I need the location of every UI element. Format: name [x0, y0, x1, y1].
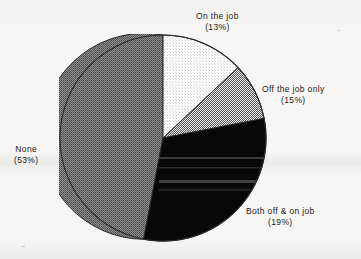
slice-label-text: On the job	[196, 11, 239, 21]
slice-label-percent: (53%)	[14, 155, 38, 166]
slice-label-both-off-and-on-job: Both off & on job (19%)	[246, 206, 315, 228]
pie-svg	[59, 34, 267, 242]
scan-speck	[338, 30, 340, 31]
pie-chart-figure: On the job (13%) Off the job only (15%) …	[0, 0, 361, 259]
slice-label-on-the-job: On the job (13%)	[196, 11, 239, 33]
pie-slice-none	[59, 34, 163, 239]
slice-label-percent: (15%)	[262, 95, 325, 106]
scan-speck	[22, 246, 25, 247]
slice-label-none: None (53%)	[14, 144, 38, 166]
slice-label-off-the-job-only: Off the job only (15%)	[262, 84, 325, 106]
slice-label-percent: (13%)	[196, 22, 239, 33]
slice-label-text: None	[15, 144, 37, 154]
slice-label-text: Off the job only	[262, 84, 325, 94]
slice-label-text: Both off & on job	[246, 206, 315, 216]
pie-graphic	[59, 34, 267, 242]
slice-label-percent: (19%)	[246, 217, 315, 228]
